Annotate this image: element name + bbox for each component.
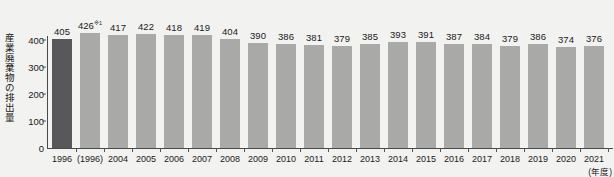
- bar-group: 391: [416, 42, 436, 148]
- bar: [332, 46, 352, 148]
- bar-value-label: 391: [418, 29, 434, 40]
- x-tick-label: 2018: [500, 154, 520, 164]
- bar-value-label: 384: [474, 31, 490, 42]
- bar-group: 419: [192, 35, 212, 148]
- x-tick-label: 2010: [276, 154, 296, 164]
- bar: [192, 35, 212, 148]
- bar-value-label: 386: [530, 31, 546, 42]
- y-tick-label: 400: [18, 35, 44, 46]
- bar-value-label: 417: [110, 22, 126, 33]
- bar-value-label: 393: [390, 29, 406, 40]
- bar-value-label: 385: [362, 31, 378, 42]
- bar: [388, 42, 408, 148]
- x-tick-mark: [524, 149, 525, 152]
- x-tick-mark: [412, 149, 413, 152]
- bar-value-label: 422: [138, 21, 154, 32]
- x-tick-mark: [244, 149, 245, 152]
- bar-group: 417: [108, 35, 128, 148]
- bar-value-label: 387: [446, 31, 462, 42]
- x-tick-label: 2009: [248, 154, 268, 164]
- bar-value-label: 390: [250, 30, 266, 41]
- y-tick-label: 0: [18, 143, 44, 154]
- bar: [52, 39, 72, 148]
- bar: [304, 45, 324, 148]
- x-tick-label: 2012: [332, 154, 352, 164]
- x-tick-mark: [608, 149, 609, 152]
- bar-group: 426※1: [80, 33, 100, 148]
- x-tick-mark: [496, 149, 497, 152]
- x-tick-mark: [76, 149, 77, 152]
- bar: [136, 34, 156, 148]
- bar-group: 379: [332, 46, 352, 148]
- bar: [500, 46, 520, 148]
- bar-group: 405: [52, 39, 72, 148]
- x-tick-mark: [272, 149, 273, 152]
- bar-group: 379: [500, 46, 520, 148]
- x-tick-label: (1996): [77, 154, 103, 164]
- x-tick-mark: [132, 149, 133, 152]
- x-tick-label: 2019: [528, 154, 548, 164]
- x-tick-label: 2015: [416, 154, 436, 164]
- y-tick-label: 100: [18, 116, 44, 127]
- bar: [108, 35, 128, 148]
- bar: [80, 33, 100, 148]
- x-tick-label: 2016: [444, 154, 464, 164]
- annotation-marker: ※1: [94, 20, 102, 26]
- bar-group: 381: [304, 45, 324, 148]
- bar: [556, 47, 576, 148]
- x-tick-label: 2021: [584, 154, 604, 164]
- x-tick-mark: [580, 149, 581, 152]
- x-tick-mark: [160, 149, 161, 152]
- x-tick-label: 1996: [52, 154, 72, 164]
- x-tick-mark: [300, 149, 301, 152]
- bar: [584, 46, 604, 148]
- x-axis-unit-label: (年度): [588, 165, 612, 177]
- bar: [164, 35, 184, 148]
- y-tick-mark: [42, 121, 46, 122]
- bar-group: 418: [164, 35, 184, 148]
- bar-group: 422: [136, 34, 156, 148]
- x-tick-label: 2006: [164, 154, 184, 164]
- bar-value-label: 386: [278, 31, 294, 42]
- x-tick-mark: [104, 149, 105, 152]
- bar-group: 384: [472, 44, 492, 148]
- x-tick-mark: [468, 149, 469, 152]
- bar: [528, 44, 548, 148]
- x-tick-mark: [328, 149, 329, 152]
- bar-value-label: 404: [222, 26, 238, 37]
- bar: [416, 42, 436, 148]
- bar: [472, 44, 492, 148]
- bar-value-label: 379: [334, 33, 350, 44]
- bar-value-label: 376: [586, 33, 602, 44]
- bar-group: 387: [444, 44, 464, 148]
- y-tick-label: 300: [18, 62, 44, 73]
- x-tick-label: 2007: [192, 154, 212, 164]
- bar-value-label: 418: [166, 22, 182, 33]
- y-tick-mark: [42, 94, 46, 95]
- bar: [248, 43, 268, 148]
- x-tick-mark: [356, 149, 357, 152]
- y-tick-mark: [42, 67, 46, 68]
- x-tick-label: 2014: [388, 154, 408, 164]
- x-tick-label: 2005: [136, 154, 156, 164]
- bar: [220, 39, 240, 148]
- bar: [360, 44, 380, 148]
- bar-value-label: 426※1: [78, 20, 102, 31]
- bar-group: 385: [360, 44, 380, 148]
- bar-value-label: 381: [306, 32, 322, 43]
- y-tick-label: 200: [18, 89, 44, 100]
- y-axis-line: [47, 36, 48, 149]
- bar: [444, 44, 464, 148]
- x-tick-label: 2013: [360, 154, 380, 164]
- bar-chart: 産業廃棄物の排出量 0100200300400 4051996426※1(199…: [0, 0, 614, 177]
- x-tick-label: 2017: [472, 154, 492, 164]
- x-tick-mark: [552, 149, 553, 152]
- x-tick-label: 2008: [220, 154, 240, 164]
- bar-value-label: 379: [502, 33, 518, 44]
- y-tick-mark: [42, 40, 46, 41]
- bar-value-label: 405: [54, 26, 70, 37]
- bar-group: 386: [528, 44, 548, 148]
- bar-group: 386: [276, 44, 296, 148]
- bar-group: 390: [248, 43, 268, 148]
- x-tick-label: 2020: [556, 154, 576, 164]
